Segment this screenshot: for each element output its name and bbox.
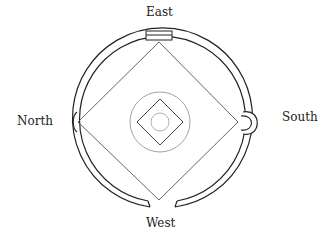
label-north: North	[17, 114, 53, 128]
label-south: South	[282, 110, 318, 124]
label-east: East	[146, 5, 173, 19]
north-notch	[73, 112, 77, 132]
outer-wall	[72, 28, 252, 207]
middle-circle	[130, 92, 190, 152]
center-circle	[151, 113, 169, 131]
east-gate	[146, 31, 172, 40]
label-west: West	[146, 216, 175, 230]
south-apse	[243, 112, 257, 135]
inner-diamond	[137, 99, 183, 145]
